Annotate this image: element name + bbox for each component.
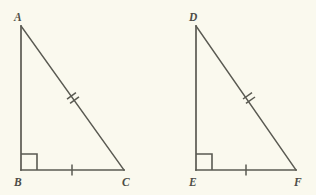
vertex-label-f: F <box>293 176 302 188</box>
vertex-label-b: B <box>13 176 22 188</box>
figure-background <box>0 0 316 195</box>
triangles-diagram: A B C D E F <box>0 0 316 195</box>
vertex-label-e: E <box>188 176 197 188</box>
vertex-label-d: D <box>188 11 198 23</box>
vertex-label-a: A <box>13 11 22 23</box>
vertex-label-c: C <box>122 176 130 188</box>
geometry-figure: A B C D E F <box>0 0 316 195</box>
